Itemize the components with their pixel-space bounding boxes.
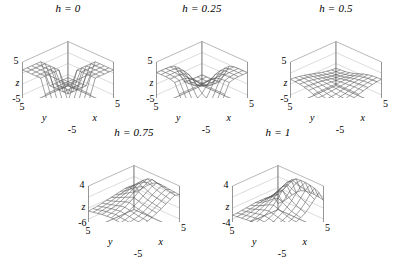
y-tick-max: 5 xyxy=(288,101,293,112)
z-axis-label: z xyxy=(82,201,86,212)
z-tick-max: 5 xyxy=(282,55,287,66)
panel-h-05: h = 0.55-5z5-5y5x xyxy=(274,2,398,98)
panel-h-0: h = 05-5z5-5y5x xyxy=(6,2,130,98)
plot-area xyxy=(140,16,264,98)
plot-area xyxy=(6,16,130,98)
panel-h-025: h = 0.255-5z5-5y5x xyxy=(140,2,264,98)
y-axis-label: y xyxy=(252,236,256,247)
y-tick-max: 5 xyxy=(154,101,159,112)
axis-panes xyxy=(291,42,382,99)
x-axis-label: x xyxy=(361,112,365,123)
z-tick-max: 4 xyxy=(224,179,229,190)
y-tick-min: -5 xyxy=(134,248,142,259)
axis-panes xyxy=(89,166,180,223)
x-tick-max: 5 xyxy=(115,98,120,109)
panel-title: h = 0 xyxy=(6,2,130,14)
z-tick-max: 4 xyxy=(80,179,85,190)
y-tick-min: -5 xyxy=(278,248,286,259)
x-axis-label: x xyxy=(227,112,231,123)
z-tick-max: 5 xyxy=(14,55,19,66)
y-axis-label: y xyxy=(176,112,180,123)
panel-title: h = 0.75 xyxy=(72,126,196,138)
plot-area xyxy=(274,16,398,98)
z-axis-label: z xyxy=(226,201,230,212)
y-tick-min: -5 xyxy=(202,124,210,135)
y-axis-label: y xyxy=(42,112,46,123)
axis-panes xyxy=(233,166,324,223)
z-axis-label: z xyxy=(284,77,288,88)
x-axis-label: x xyxy=(159,236,163,247)
panel-h-075: h = 0.754-6z5-5y5x xyxy=(72,126,196,222)
panel-h-1: h = 14-4z5-5y5x xyxy=(216,126,340,222)
axis-panes xyxy=(157,42,248,99)
z-axis-label: z xyxy=(150,77,154,88)
y-tick-max: 5 xyxy=(230,225,235,236)
panel-title: h = 0.5 xyxy=(274,2,398,14)
y-axis-label: y xyxy=(310,112,314,123)
x-tick-max: 5 xyxy=(249,98,254,109)
x-tick-max: 5 xyxy=(383,98,388,109)
panel-title: h = 0.25 xyxy=(140,2,264,14)
x-tick-max: 5 xyxy=(325,222,330,233)
plot-area xyxy=(216,140,340,222)
y-tick-max: 5 xyxy=(20,101,25,112)
z-axis-label: z xyxy=(16,77,20,88)
axis-panes xyxy=(23,42,114,99)
z-tick-max: 5 xyxy=(148,55,153,66)
plot-area xyxy=(72,140,196,222)
x-axis-label: x xyxy=(93,112,97,123)
panel-title: h = 1 xyxy=(216,126,340,138)
x-tick-max: 5 xyxy=(181,222,186,233)
y-axis-label: y xyxy=(108,236,112,247)
x-axis-label: x xyxy=(303,236,307,247)
y-tick-max: 5 xyxy=(86,225,91,236)
